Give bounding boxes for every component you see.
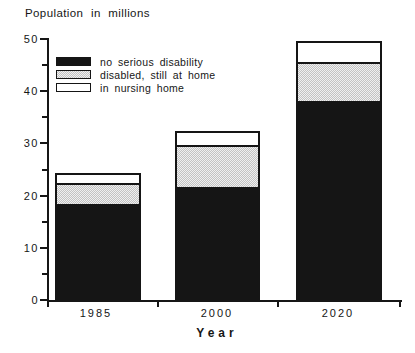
- y-tick: [40, 142, 47, 144]
- y-tick-label: 50: [11, 32, 39, 46]
- x-tick: [47, 301, 49, 307]
- y-tick: [40, 247, 47, 249]
- x-tick: [157, 301, 159, 307]
- stacked-bar-chart: Population in millions 01020304050 no se…: [0, 0, 415, 353]
- bar-segment-1985-no-serious-disability: [55, 204, 141, 300]
- y-tick-label: 10: [11, 241, 39, 255]
- bar-segment-2000-in-nursing-home: [175, 131, 260, 145]
- bar-segment-2020-no-serious-disability: [296, 101, 382, 300]
- legend: no serious disability disabled, still at…: [56, 57, 215, 96]
- legend-swatch-white: [56, 83, 91, 92]
- bar-segment-2000-no-serious-disability: [175, 187, 260, 300]
- legend-label: in nursing home: [100, 82, 184, 94]
- y-tick: [42, 116, 47, 118]
- y-tick: [42, 64, 47, 66]
- y-tick: [40, 90, 47, 92]
- y-tick: [40, 38, 47, 40]
- bar-segment-2000-disabled-still-at-home: [175, 145, 260, 187]
- legend-label: no serious disability: [100, 56, 203, 68]
- x-axis-line: [47, 300, 402, 302]
- x-tick-label-2020: 2020: [298, 307, 378, 319]
- y-tick: [42, 169, 47, 171]
- x-axis-title: Year: [157, 326, 277, 340]
- legend-item: disabled, still at home: [56, 70, 215, 79]
- bar-segment-2020-disabled-still-at-home: [296, 62, 382, 101]
- y-tick: [42, 221, 47, 223]
- x-tick: [277, 301, 279, 307]
- y-axis-line: [47, 38, 49, 302]
- y-tick: [40, 195, 47, 197]
- legend-label: disabled, still at home: [100, 69, 215, 81]
- bar-segment-2020-in-nursing-home: [296, 41, 382, 62]
- y-tick-label: 0: [11, 293, 39, 307]
- y-tick-label: 30: [11, 136, 39, 150]
- y-tick-label: 20: [11, 189, 39, 203]
- y-tick-label: 40: [11, 84, 39, 98]
- legend-item: in nursing home: [56, 83, 215, 92]
- x-tick: [399, 301, 401, 307]
- x-tick-label-2000: 2000: [177, 307, 257, 319]
- x-tick-label-1985: 1985: [56, 307, 136, 319]
- chart-title: Population in millions: [25, 7, 150, 19]
- legend-item: no serious disability: [56, 57, 215, 66]
- y-tick: [42, 273, 47, 275]
- bar-segment-1985-in-nursing-home: [55, 173, 141, 183]
- legend-swatch-stipple: [56, 70, 91, 79]
- y-tick: [40, 299, 47, 301]
- bar-segment-1985-disabled-still-at-home: [55, 183, 141, 204]
- legend-swatch-black: [56, 57, 91, 66]
